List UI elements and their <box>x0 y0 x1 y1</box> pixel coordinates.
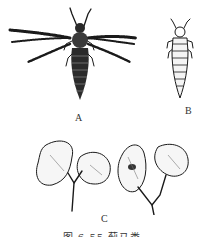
figure-caption: 图 6-55 蓟马类 <box>0 229 204 237</box>
panel-label-a: A <box>75 112 82 123</box>
panel-label-c: C <box>101 213 108 224</box>
thrips-nymph-illustration <box>160 18 200 102</box>
figure: A B <box>0 0 204 237</box>
panel-label-b: B <box>185 105 192 116</box>
thrips-adult-illustration <box>0 0 140 112</box>
seedlings-illustration <box>30 135 195 215</box>
